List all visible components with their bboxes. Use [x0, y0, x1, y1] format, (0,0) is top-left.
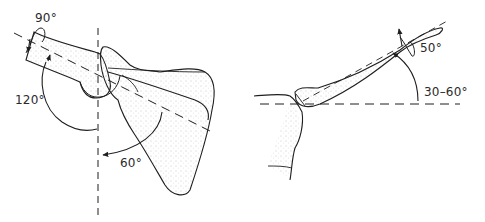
left-panel: [14, 28, 214, 215]
angle-label-50: 50°: [420, 42, 442, 54]
angle-label-30-60: 30–60°: [424, 86, 468, 98]
angle-label-120: 120°: [15, 94, 45, 106]
angle-label-90: 90°: [35, 12, 57, 24]
diagram-drawing: [0, 0, 485, 222]
diagram-figure: 90° 120° 60° 50° 30–60°: [0, 0, 485, 222]
clavicle-outline: [295, 28, 443, 107]
angle-label-60: 60°: [120, 157, 142, 169]
